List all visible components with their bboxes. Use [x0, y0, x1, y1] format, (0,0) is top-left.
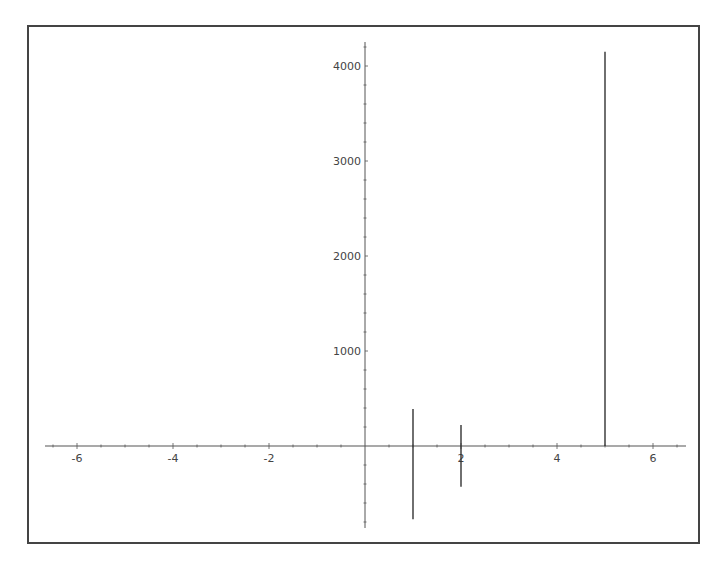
chart-plot: -6-4-22461000200030004000	[0, 0, 723, 572]
x-tick-label: -2	[264, 452, 275, 465]
x-tick-label: -6	[72, 452, 83, 465]
y-tick-label: 1000	[333, 345, 361, 358]
y-tick-label: 2000	[333, 250, 361, 263]
y-tick-label: 3000	[333, 155, 361, 168]
y-tick-label: 4000	[333, 60, 361, 73]
x-tick-label: -4	[168, 452, 179, 465]
x-tick-label: 6	[650, 452, 657, 465]
x-tick-label: 4	[554, 452, 561, 465]
